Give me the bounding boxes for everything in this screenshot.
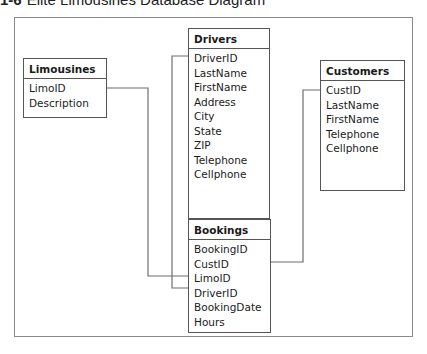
field-hours: Hours [194,315,265,330]
field-address: Address [194,95,264,110]
relationship-customers-bookings [270,90,320,262]
field-state: State [194,124,264,139]
field-custid: CustID [326,83,399,98]
field-list: CustID LastName FirstName Telephone Cell… [321,81,404,156]
relationship-drivers-bookings [172,56,188,288]
field-cellphone: Cellphone [194,167,264,182]
field-driverid: DriverID [194,286,265,301]
field-telephone: Telephone [326,127,399,142]
field-description: Description [29,96,101,111]
field-limoid: LimoID [194,271,265,286]
field-limoid: LimoID [29,81,101,96]
table-bookings[interactable]: Bookings BookingID CustID LimoID DriverI… [188,219,271,333]
field-firstname: FirstName [194,80,264,95]
field-telephone: Telephone [194,153,264,168]
table-header: Drivers [189,29,269,49]
field-firstname: FirstName [326,112,399,127]
table-limousines[interactable]: Limousines LimoID Description [23,58,107,118]
field-lastname: LastName [194,66,264,81]
field-list: BookingID CustID LimoID DriverID Booking… [189,240,270,329]
field-cellphone: Cellphone [326,141,399,156]
field-city: City [194,109,264,124]
table-header: Limousines [24,59,106,79]
relationship-limousines-bookings [106,88,188,276]
table-customers[interactable]: Customers CustID LastName FirstName Tele… [320,60,405,191]
field-custid: CustID [194,257,265,272]
table-header: Customers [321,61,404,81]
field-bookingid: BookingID [194,242,265,257]
field-driverid: DriverID [194,51,264,66]
field-zip: ZIP [194,138,264,153]
field-list: DriverID LastName FirstName Address City… [189,49,269,182]
table-header: Bookings [189,220,270,240]
field-lastname: LastName [326,98,399,113]
table-drivers[interactable]: Drivers DriverID LastName FirstName Addr… [188,28,270,219]
field-bookingdate: BookingDate [194,300,265,315]
field-list: LimoID Description [24,79,106,110]
